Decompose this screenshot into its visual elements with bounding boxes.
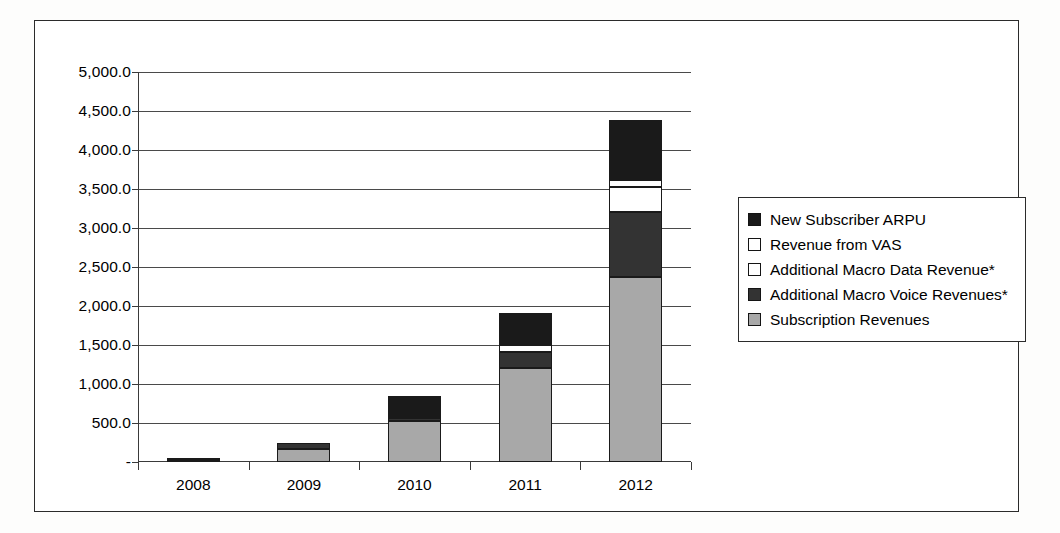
legend-item[interactable]: Subscription Revenues <box>748 307 1015 332</box>
y-axis-tick-label: 3,000.0 <box>11 219 131 237</box>
gridline <box>138 384 691 385</box>
y-axis-tick-label: - <box>11 453 131 471</box>
bar-segment <box>609 187 662 211</box>
chart-screenshot: 5,000.04,500.04,000.03,500.03,000.02,500… <box>0 0 1060 533</box>
gridline <box>138 228 691 229</box>
chart-legend: New Subscriber ARPURevenue from VASAddit… <box>738 197 1026 342</box>
y-axis-tick-label: 2,000.0 <box>11 297 131 315</box>
legend-item[interactable]: Additional Macro Voice Revenues* <box>748 282 1015 307</box>
x-axis-tick <box>359 462 360 470</box>
bar-segment <box>609 120 662 180</box>
bar-segment <box>499 352 552 368</box>
x-axis-label-2010: 2010 <box>370 476 460 494</box>
legend-swatch-icon <box>748 213 761 226</box>
bar-segment <box>609 277 662 462</box>
bar-segment <box>388 396 441 416</box>
bar-segment <box>609 212 662 278</box>
x-axis-label-2009: 2009 <box>259 476 349 494</box>
bar-segment <box>499 345 552 352</box>
legend-label: Subscription Revenues <box>770 312 929 328</box>
gridline <box>138 72 691 73</box>
y-axis-tick-label: 4,500.0 <box>11 102 131 120</box>
bar-segment <box>277 443 330 449</box>
y-axis-tick-label: 3,500.0 <box>11 180 131 198</box>
x-axis-tick <box>249 462 250 470</box>
legend-item[interactable]: Additional Macro Data Revenue* <box>748 257 1015 282</box>
x-axis-label-2008: 2008 <box>148 476 238 494</box>
y-axis-tick <box>132 267 139 268</box>
y-axis-tick-label: 1,000.0 <box>11 375 131 393</box>
y-axis-tick <box>132 189 139 190</box>
bar-segment <box>499 313 552 343</box>
y-axis-tick <box>132 345 139 346</box>
bar-segment <box>167 458 220 460</box>
bar-segment <box>277 449 330 462</box>
legend-item[interactable]: Revenue from VAS <box>748 232 1015 257</box>
gridline <box>138 306 691 307</box>
gridline <box>138 150 691 151</box>
y-axis-tick <box>132 306 139 307</box>
x-axis-tick <box>470 462 471 470</box>
legend-label: Revenue from VAS <box>770 237 902 253</box>
y-axis-tick <box>132 72 139 73</box>
x-axis-tick <box>138 462 139 470</box>
legend-label: New Subscriber ARPU <box>770 212 926 228</box>
bar-segment <box>609 180 662 188</box>
y-axis-tick <box>132 384 139 385</box>
legend-label: Additional Macro Data Revenue* <box>770 262 995 278</box>
bar-segment <box>388 418 441 421</box>
y-axis-tick <box>132 150 139 151</box>
y-axis-tick-label: 1,500.0 <box>11 336 131 354</box>
y-axis-tick <box>132 228 139 229</box>
bar-2008 <box>167 458 220 462</box>
legend-swatch-icon <box>748 263 761 276</box>
bar-2012 <box>609 120 662 462</box>
y-axis-tick-label: 4,000.0 <box>11 141 131 159</box>
bar-segment <box>167 460 220 462</box>
y-axis-tick <box>132 423 139 424</box>
x-axis-label-2012: 2012 <box>591 476 681 494</box>
bar-segment <box>499 343 552 345</box>
gridline <box>138 267 691 268</box>
gridline <box>138 111 691 112</box>
figure-frame: 5,000.04,500.04,000.03,500.03,000.02,500… <box>34 20 1019 512</box>
y-axis-tick-label: 2,500.0 <box>11 258 131 276</box>
legend-swatch-icon <box>748 288 761 301</box>
legend-label: Additional Macro Voice Revenues* <box>770 287 1008 303</box>
bar-segment <box>499 368 552 462</box>
gridline <box>138 189 691 190</box>
legend-swatch-icon <box>748 238 761 251</box>
bar-2011 <box>499 313 552 462</box>
y-axis-tick <box>132 111 139 112</box>
x-axis-tick <box>691 462 692 470</box>
x-axis-label-2011: 2011 <box>480 476 570 494</box>
legend-item[interactable]: New Subscriber ARPU <box>748 207 1015 232</box>
bar-2009 <box>277 443 330 463</box>
bar-2010 <box>388 396 441 462</box>
y-axis-tick-label: 500.0 <box>11 414 131 432</box>
x-axis-tick <box>580 462 581 470</box>
legend-swatch-icon <box>748 313 761 326</box>
bar-segment <box>388 421 441 462</box>
y-axis-tick-label: 5,000.0 <box>11 63 131 81</box>
gridline <box>138 345 691 346</box>
plot-area: 5,000.04,500.04,000.03,500.03,000.02,500… <box>138 72 691 462</box>
